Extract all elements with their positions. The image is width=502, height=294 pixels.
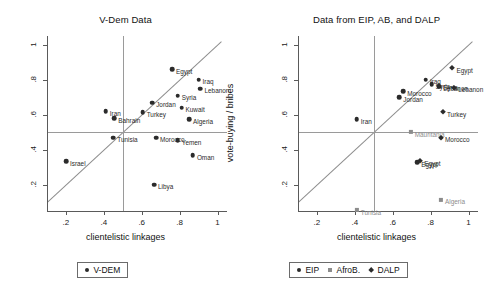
data-point: [196, 77, 201, 82]
y-tick: [294, 80, 298, 81]
data-point: [170, 67, 175, 72]
legend-item: AfroB.: [328, 265, 360, 275]
data-point-label: Bahrain: [118, 116, 140, 123]
legend-item: DALP: [369, 265, 400, 275]
x-tick-label: .4: [94, 218, 114, 227]
y-axis-line: [47, 36, 48, 211]
data-point: [354, 117, 359, 122]
x-tick-label: .6: [132, 218, 152, 227]
x-tick: [431, 211, 432, 215]
data-point-label: Algeria: [445, 198, 465, 205]
x-axis-title: clientelistic linkages: [251, 232, 502, 242]
data-point: [355, 208, 359, 212]
y-axis-title: vote-buying / bribes: [225, 63, 235, 183]
data-point: [449, 65, 455, 71]
x-tick-label: 1: [208, 218, 228, 227]
y-tick: [43, 80, 47, 81]
legend-label: EIP: [305, 265, 319, 275]
x-tick: [104, 211, 105, 215]
data-point-label: Morocco: [445, 136, 470, 143]
y-tick-label: .4: [29, 141, 38, 157]
data-point: [439, 198, 443, 202]
y-tick-label: .2: [29, 176, 38, 192]
data-point: [64, 159, 69, 164]
y-tick-label: .6: [280, 106, 289, 122]
data-point: [401, 89, 406, 94]
data-point: [187, 117, 192, 122]
y-tick-label: .4: [280, 141, 289, 157]
y-tick: [43, 45, 47, 46]
x-tick-label: .2: [307, 218, 327, 227]
data-point-label: Turkey: [147, 110, 166, 117]
y-tick: [43, 150, 47, 151]
data-point: [397, 95, 402, 100]
x-tick-label: .6: [383, 218, 403, 227]
x-tick-label: .2: [56, 218, 76, 227]
data-point-label: Iraq: [203, 78, 214, 85]
data-point: [150, 100, 155, 105]
legend-item: EIP: [297, 265, 319, 275]
x-tick: [66, 211, 67, 215]
x-tick-label: 1: [459, 218, 479, 227]
y-tick-label: .6: [29, 106, 38, 122]
y-axis-line: [298, 36, 299, 211]
data-point: [409, 130, 413, 134]
data-point: [175, 93, 180, 98]
data-point-label: Kuwait: [186, 106, 205, 113]
data-point-label: Egypt: [424, 159, 440, 166]
y-tick: [294, 45, 298, 46]
data-point-label: Egypt: [176, 67, 192, 74]
data-point-label: Lebanon: [458, 86, 483, 93]
y-tick-label: .2: [280, 176, 289, 192]
data-point: [154, 135, 159, 140]
data-point: [112, 116, 117, 121]
data-point-label: Oman: [197, 153, 214, 160]
x-axis-line: [47, 211, 227, 212]
x-tick: [393, 211, 394, 215]
two-panel-scatter-figure: V-Dem Data 1.8.6.4.2.2.4.6.81clientelist…: [0, 0, 502, 294]
y-tick-label: .8: [29, 71, 38, 87]
data-point: [191, 153, 196, 158]
plot-area-vdem: 1.8.6.4.2.2.4.6.81clientelistic linkages…: [0, 0, 251, 294]
y-tick: [294, 150, 298, 151]
data-point-label: Yemen: [182, 138, 202, 145]
legend-label: V-DEM: [93, 265, 120, 275]
y-tick-label: .8: [280, 71, 289, 87]
data-point: [152, 182, 157, 187]
data-point-label: Libya: [158, 183, 173, 190]
data-point: [440, 109, 446, 115]
data-point: [175, 138, 180, 143]
data-point-label: Jordan: [403, 95, 423, 102]
data-point-label: Tunisia: [361, 208, 381, 215]
diagonal-reference-line: [298, 41, 473, 203]
data-point-label: Tunisia: [117, 136, 137, 143]
y-tick: [294, 185, 298, 186]
legend-label: DALP: [378, 265, 400, 275]
x-tick: [218, 211, 219, 215]
data-point-label: Israel: [70, 159, 86, 166]
y-tick-label: 1: [280, 36, 289, 52]
legend-marker-circle: [297, 268, 301, 272]
legend-marker-diamond: [368, 267, 374, 273]
x-tick: [142, 211, 143, 215]
data-point-label: Turkey: [447, 110, 466, 117]
x-tick-label: .8: [170, 218, 190, 227]
data-point-label: Egypt: [456, 66, 472, 73]
data-point-label: Jordan: [156, 101, 176, 108]
legend-item: V-DEM: [85, 265, 120, 275]
legend-vdem: V-DEM: [77, 262, 128, 278]
data-point-label: Syria: [182, 94, 197, 101]
data-point: [103, 109, 108, 114]
data-point-label: Iran: [361, 117, 372, 124]
x-axis-title: clientelistic linkages: [0, 232, 251, 242]
legend-marker-square: [328, 268, 332, 272]
panel-vdem: V-Dem Data 1.8.6.4.2.2.4.6.81clientelist…: [0, 0, 251, 294]
data-point: [140, 110, 145, 115]
horizontal-reference-line: [47, 132, 227, 133]
legend-eip-ab-dalp: EIPAfroB.DALP: [289, 262, 408, 278]
panel-eip-ab-dalp: Data from EIP, AB, and DALP 1.8.6.4.2.2.…: [251, 0, 502, 294]
x-tick: [180, 211, 181, 215]
legend-label: AfroB.: [336, 265, 360, 275]
y-tick: [43, 185, 47, 186]
x-axis-line: [298, 211, 478, 212]
